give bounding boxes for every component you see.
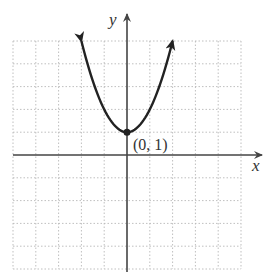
graph: (0, 1) x y — [0, 0, 272, 280]
vertex-point — [124, 129, 131, 136]
y-axis-label: y — [107, 10, 117, 29]
x-axis-label: x — [251, 156, 260, 175]
vertex-label: (0, 1) — [133, 136, 168, 154]
